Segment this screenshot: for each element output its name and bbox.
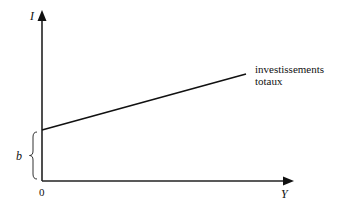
- intercept-brace: [30, 132, 38, 179]
- y-axis-label: I: [29, 9, 35, 23]
- x-axis-label: Y: [281, 187, 289, 201]
- y-axis-arrow-icon: [38, 10, 47, 21]
- intercept-label: b: [16, 149, 22, 163]
- origin-label: 0: [39, 186, 45, 198]
- x-axis-arrow-icon: [283, 177, 294, 186]
- line-label-line1: investissements: [255, 63, 324, 75]
- total-investment-line: [42, 74, 246, 130]
- investment-function-diagram: I Y 0 b investissements totaux: [0, 0, 337, 208]
- line-label-line2: totaux: [255, 75, 283, 87]
